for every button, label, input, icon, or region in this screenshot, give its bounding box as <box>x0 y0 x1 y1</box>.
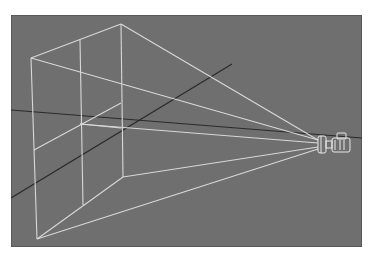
perspective-viewport[interactable] <box>11 15 362 247</box>
window-top-strip <box>0 0 373 15</box>
viewport-canvas[interactable] <box>11 15 362 247</box>
